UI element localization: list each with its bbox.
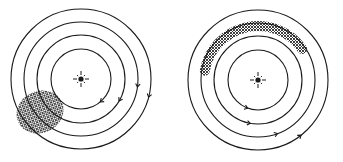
right-orbit-panel: [188, 10, 328, 150]
left-orbit-panel: [9, 9, 151, 149]
gas-cloud-stream: [205, 26, 302, 71]
sun-star-icon: [250, 72, 266, 88]
orbit-diagram: [0, 0, 343, 162]
sun-star-icon: [73, 71, 89, 87]
